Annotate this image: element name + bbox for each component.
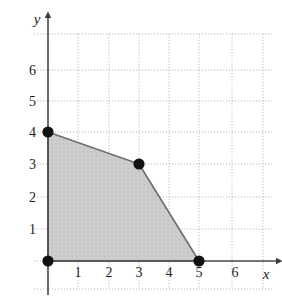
y-tick-label-6: 6 <box>29 63 36 78</box>
x-tick-label-6: 6 <box>232 265 239 280</box>
coordinate-plane-figure: 1 2 3 4 5 6 1 2 3 4 5 6 x y <box>0 0 282 301</box>
y-tick-label-3: 3 <box>29 157 36 172</box>
point-origin <box>42 255 53 266</box>
y-tick-label-4: 4 <box>29 125 36 140</box>
x-tick-label-4: 4 <box>166 265 173 280</box>
x-tick-label-3: 3 <box>136 265 143 280</box>
shaded-feasible-region <box>48 132 199 261</box>
y-tick-label-1: 1 <box>29 222 36 237</box>
x-tick-label-5: 5 <box>196 265 203 280</box>
point-3-3 <box>133 158 144 169</box>
y-axis-label: y <box>32 11 41 27</box>
x-tick-label-2: 2 <box>106 265 113 280</box>
y-tick-label-2: 2 <box>29 190 36 205</box>
graph-canvas: 1 2 3 4 5 6 1 2 3 4 5 6 x y <box>0 0 282 301</box>
point-0-4 <box>42 126 53 137</box>
x-axis-label: x <box>262 266 270 282</box>
x-tick-label-1: 1 <box>75 265 82 280</box>
y-tick-label-5: 5 <box>29 94 36 109</box>
y-tick-labels: 1 2 3 4 5 6 <box>29 63 36 237</box>
x-tick-labels: 1 2 3 4 5 6 <box>75 265 239 280</box>
